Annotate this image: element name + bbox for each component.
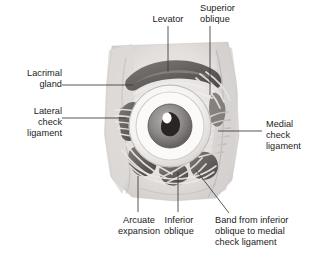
anatomy-figure: Levator Superior oblique Lacrimal gland … bbox=[0, 0, 329, 260]
label-lateral-check-ligament: Lateral check ligament bbox=[4, 106, 62, 140]
specimen-svg bbox=[96, 40, 244, 202]
label-superior-oblique: Superior oblique bbox=[200, 3, 278, 25]
label-levator: Levator bbox=[128, 14, 208, 25]
label-band-inferior-oblique: Band from inferior oblique to medial che… bbox=[215, 215, 327, 249]
eyeball-globe bbox=[129, 85, 211, 167]
orbit-dissection-illustration bbox=[96, 40, 244, 202]
corneal-highlight bbox=[162, 113, 171, 124]
label-inferior-oblique: Inferior oblique bbox=[150, 215, 208, 237]
label-medial-check-ligament: Medial check ligament bbox=[266, 119, 326, 153]
label-lacrimal-gland: Lacrimal gland bbox=[6, 68, 62, 90]
